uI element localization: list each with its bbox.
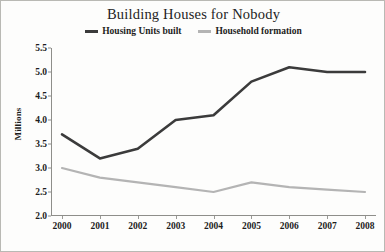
y-tick-label: 5.5 [35,43,47,53]
plot-area: 2.02.53.03.54.04.55.05.5 200020012002200… [51,46,376,216]
legend-label-housing-units-built: Housing Units built [102,27,181,37]
x-tick-label: 2003 [166,221,185,231]
x-tick-mark [100,216,101,219]
y-tick-label: 2.0 [35,211,47,221]
legend-label-household-formation: Household formation [215,27,301,37]
y-tick-label: 4.0 [35,115,47,125]
series-lines [51,46,376,216]
x-tick-label: 2002 [128,221,147,231]
x-tick-label: 2006 [280,221,299,231]
y-tick-label: 3.5 [35,139,47,149]
y-tick-label: 4.5 [35,91,47,101]
series-line-household-formation [62,168,365,192]
chart-legend: Housing Units built Household formation [1,27,385,37]
x-tick-mark [289,216,290,219]
legend-item-housing-units-built: Housing Units built [85,27,181,37]
legend-swatch-housing-units-built [85,30,98,33]
chart-title: Building Houses for Nobody [1,6,385,23]
legend-swatch-household-formation [198,30,211,33]
x-tick-mark [214,216,215,219]
x-tick-mark [176,216,177,219]
series-line-housing-units-built [62,67,365,158]
x-tick-label: 2008 [356,221,375,231]
y-tick-label: 2.5 [35,187,47,197]
x-tick-mark [327,216,328,219]
legend-item-household-formation: Household formation [198,27,301,37]
x-tick-label: 2004 [204,221,223,231]
y-tick-label: 5.0 [35,67,47,77]
x-tick-label: 2000 [53,221,72,231]
x-tick-label: 2007 [318,221,337,231]
x-tick-mark [138,216,139,219]
y-axis-title: Millions [13,94,23,154]
x-tick-label: 2001 [90,221,109,231]
x-tick-mark [365,216,366,219]
chart-screenshot: Building Houses for Nobody Housing Units… [0,0,385,252]
x-tick-label: 2005 [242,221,261,231]
x-tick-mark [251,216,252,219]
x-tick-mark [62,216,63,219]
y-tick-label: 3.0 [35,163,47,173]
